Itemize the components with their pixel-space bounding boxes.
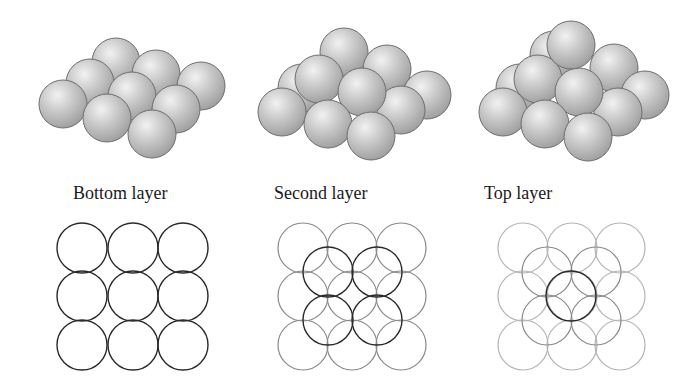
label-second-layer: Second layer: [274, 182, 367, 204]
sphere: [83, 94, 131, 142]
sphere: [39, 80, 87, 128]
sphere-cluster-second-layer: [258, 28, 451, 160]
sphere: [479, 88, 527, 136]
sphere: [521, 100, 569, 148]
circle-grid-second-layer: [278, 223, 426, 370]
layer-circle-dark: [57, 320, 107, 370]
layer-circle-mid: [278, 320, 328, 370]
circle-grid-top-layer: [498, 223, 645, 370]
sphere: [128, 110, 176, 158]
layer-circle-dark: [158, 271, 208, 321]
circle-grid-bottom-layer: [57, 223, 208, 370]
layer-circle-dark: [158, 223, 208, 273]
sphere: [347, 112, 395, 160]
sphere: [564, 113, 612, 161]
sphere-cluster-bottom-layer: [39, 38, 225, 158]
sphere-cluster-top-layer: [479, 21, 669, 161]
sphere: [547, 21, 595, 69]
label-top-layer: Top layer: [484, 182, 552, 204]
layer-circle-dark: [158, 320, 208, 370]
layer-circle-dark: [108, 223, 158, 273]
layer-circle-dark: [108, 320, 158, 370]
sphere: [258, 88, 306, 136]
label-bottom-layer: Bottom layer: [73, 182, 167, 204]
sphere: [295, 55, 343, 103]
layer-circle-dark: [57, 223, 107, 273]
layer-circle-dark: [108, 271, 158, 321]
layer-circle-dark: [57, 271, 107, 321]
sphere: [304, 100, 352, 148]
